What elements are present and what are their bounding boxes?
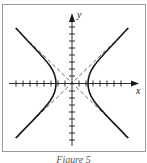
x-axis-label: x	[135, 85, 141, 96]
y-axis-label: y	[76, 9, 82, 20]
left-branch	[16, 28, 56, 138]
y-axis	[69, 20, 75, 146]
right-branch	[88, 28, 128, 138]
hyperbola-figure: x y	[0, 0, 147, 163]
y-axis-arrow-icon	[69, 13, 75, 22]
figure-caption: Figure 5	[0, 155, 147, 163]
x-axis	[9, 81, 134, 87]
